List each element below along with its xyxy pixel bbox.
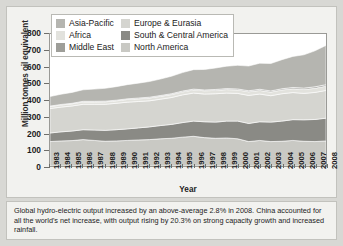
chart-legend: Asia-PacificEurope & EurasiaAfricaSouth … [51,14,234,57]
x-axis-tick-mark [305,164,306,168]
y-axis-tick-label: 300 [7,113,41,121]
y-axis-tick-label: 400 [7,96,41,104]
x-axis-tick-mark [149,164,150,168]
legend-item: South & Central America [121,30,228,41]
x-axis-tick-mark [260,164,261,168]
hydro-electric-consumption-figure: Million tonnes oil equivalent 0100200300… [0,0,343,246]
x-axis-tick-mark [327,164,328,168]
x-axis-tick-mark [49,164,50,168]
y-axis-tick-label: 0 [7,163,41,171]
x-axis-tick-mark [249,164,250,168]
x-axis-tick-mark [71,164,72,168]
x-axis-tick-mark [182,164,183,168]
legend-item: Africa [56,30,114,41]
legend-swatch-icon [56,43,65,52]
legend-label: South & Central America [134,30,228,41]
legend-swatch-icon [121,31,130,40]
legend-swatch-icon [121,19,130,28]
y-axis-tick-label: 600 [7,63,41,71]
caption-text: Global hydro-electric output increased b… [14,206,324,234]
x-axis-tick-mark [60,164,61,168]
x-axis-tick-mark [116,164,117,168]
x-axis-title: Year [49,185,327,194]
y-axis-tick-label: 700 [7,46,41,54]
x-axis-tick-mark [294,164,295,168]
x-axis-tick-mark [127,164,128,168]
x-axis-tick-mark [316,164,317,168]
x-axis-tick-mark [216,164,217,168]
x-axis-tick-mark [93,164,94,168]
x-axis-tick-mark [82,164,83,168]
x-axis-tick-mark [160,164,161,168]
legend-label: Asia-Pacific [69,18,114,29]
x-axis-tick-mark [227,164,228,168]
legend-swatch-icon [121,43,130,52]
chart-panel: Million tonnes oil equivalent 0100200300… [6,6,337,198]
legend-label: Middle East [69,42,114,53]
x-axis-tick-mark [271,164,272,168]
legend-item: Asia-Pacific [56,18,114,29]
y-axis-tick-label: 800 [7,29,41,37]
y-axis-tick-label: 100 [7,146,41,154]
x-axis-tick-mark [283,164,284,168]
y-axis-tick-label: 500 [7,79,41,87]
legend-label: Europe & Eurasia [134,18,201,29]
x-axis-tick-mark [138,164,139,168]
legend-swatch-icon [56,19,65,28]
legend-item: Europe & Eurasia [121,18,228,29]
legend-swatch-icon [56,31,65,40]
y-axis-tick-label: 200 [7,130,41,138]
x-axis-tick-label: 2008 [330,152,339,169]
x-axis-tick-mark [194,164,195,168]
x-axis-tick-mark [171,164,172,168]
legend-label: North America [134,42,188,53]
x-axis-tick-mark [238,164,239,168]
x-axis-tick-mark [205,164,206,168]
legend-label: Africa [69,30,91,41]
legend-item: Middle East [56,42,114,53]
legend-item: North America [121,42,228,53]
x-axis-tick-mark [105,164,106,168]
caption-box: Global hydro-electric output increased b… [6,201,337,240]
